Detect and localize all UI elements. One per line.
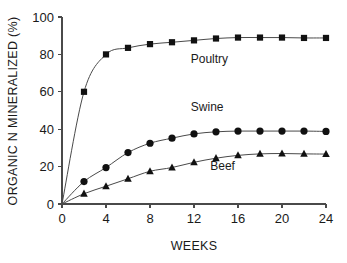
series-label-beef: Beef xyxy=(210,159,235,173)
data-point-swine xyxy=(278,127,285,134)
series-label-poultry: Poultry xyxy=(191,52,228,66)
figure-caption-fragment xyxy=(0,257,347,263)
x-axis-tick-label: 0 xyxy=(58,211,65,226)
data-point-poultry xyxy=(279,34,285,40)
data-point-beef xyxy=(278,149,286,156)
series-markers-beef xyxy=(80,149,330,196)
y-axis-title: ORGANIC N MINERALIZED (%) xyxy=(6,17,20,206)
y-axis-tick-label: 60 xyxy=(40,84,54,99)
data-point-swine xyxy=(168,135,175,142)
data-point-poultry xyxy=(147,41,153,47)
data-point-swine xyxy=(234,127,241,134)
data-point-swine xyxy=(212,128,219,135)
data-point-poultry xyxy=(169,39,175,45)
series-beef xyxy=(62,149,330,204)
data-point-poultry xyxy=(213,35,219,41)
data-point-swine xyxy=(102,164,109,171)
data-point-poultry xyxy=(103,51,109,57)
organic-n-mineralization-line-chart: 020406080100 04812162024 PoultrySwineBee… xyxy=(0,0,347,263)
y-axis-tick-label: 20 xyxy=(40,159,54,174)
data-point-swine xyxy=(322,128,329,135)
data-point-swine xyxy=(80,178,87,185)
data-point-swine xyxy=(300,127,307,134)
data-point-swine xyxy=(190,130,197,137)
x-axis-tick-label: 12 xyxy=(187,211,201,226)
data-point-swine xyxy=(124,149,131,156)
y-axis-tick-label: 0 xyxy=(47,197,54,212)
data-point-poultry xyxy=(301,35,307,41)
data-point-poultry xyxy=(125,45,131,51)
data-point-poultry xyxy=(257,34,263,40)
data-point-poultry xyxy=(191,37,197,43)
y-axis-tick-label: 100 xyxy=(32,10,54,25)
x-axis-tick-label: 4 xyxy=(102,211,109,226)
series-label-swine: Swine xyxy=(191,100,224,114)
x-axis-tick-label: 16 xyxy=(231,211,245,226)
data-point-poultry xyxy=(81,89,87,95)
data-point-swine xyxy=(146,140,153,147)
x-axis-tick-label: 8 xyxy=(146,211,153,226)
data-point-beef xyxy=(322,150,330,157)
series-swine xyxy=(62,127,330,204)
series-line-swine xyxy=(62,131,326,204)
y-axis-tick-label: 40 xyxy=(40,122,54,137)
series-annotation-labels: PoultrySwineBeef xyxy=(191,52,236,174)
data-point-swine xyxy=(256,127,263,134)
x-axis-tick-labels: 04812162024 xyxy=(58,211,333,226)
y-axis-tick-label: 80 xyxy=(40,47,54,62)
y-axis-tick-labels: 020406080100 xyxy=(32,10,54,212)
x-axis-tick-label: 20 xyxy=(275,211,289,226)
figure-container: 020406080100 04812162024 PoultrySwineBee… xyxy=(0,0,347,263)
x-axis-tick-label: 24 xyxy=(319,211,333,226)
data-point-beef xyxy=(300,150,308,157)
data-point-poultry xyxy=(235,34,241,40)
data-point-poultry xyxy=(323,35,329,41)
x-axis-title: WEEKS xyxy=(171,239,218,253)
series-markers-swine xyxy=(80,127,329,185)
